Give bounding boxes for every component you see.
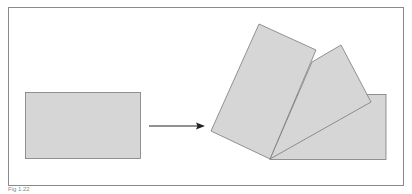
diagram-canvas — [0, 0, 412, 194]
original-rectangle — [26, 93, 141, 159]
figure-caption: Fig 1.22 — [8, 186, 30, 192]
